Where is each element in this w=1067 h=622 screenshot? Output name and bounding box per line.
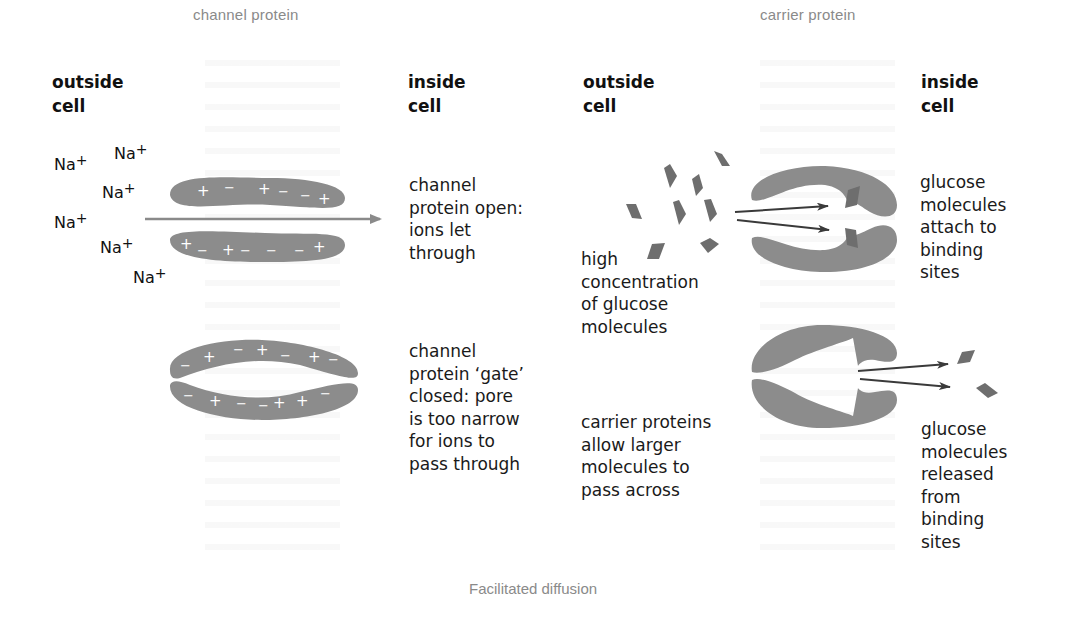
diagram-graphics: + − + − − + + − + − − − + − + − + − + − … [0, 0, 1067, 622]
release-top-subunit [752, 325, 897, 373]
glucose-molecules-outside [626, 151, 730, 259]
glucose-release-description: glucose molecules released from binding … [921, 418, 1007, 553]
sodium-ion: Na+ [54, 152, 88, 174]
svg-text:−: − [197, 243, 208, 258]
carrier-outside-cell-label: outside cell [583, 70, 655, 118]
svg-text:−: − [294, 243, 305, 258]
glucose-entry-arrow-2 [737, 220, 829, 230]
svg-text:−: − [266, 243, 277, 258]
svg-text:−: − [258, 398, 269, 413]
svg-text:−: − [300, 188, 311, 203]
svg-text:+: + [197, 182, 210, 200]
svg-text:−: − [328, 352, 339, 367]
svg-text:−: − [183, 388, 194, 403]
svg-text:+: + [203, 348, 216, 366]
svg-text:+: + [318, 190, 331, 208]
svg-text:+: + [258, 180, 271, 198]
released-glucose-2 [976, 383, 998, 398]
release-bottom-subunit [752, 379, 897, 428]
sodium-ion: Na+ [100, 235, 134, 257]
svg-text:−: − [224, 180, 235, 195]
svg-text:−: − [236, 396, 247, 411]
sodium-ion: Na+ [133, 265, 167, 287]
svg-text:+: + [273, 394, 286, 412]
glucose-release-arrow-1 [858, 364, 948, 371]
channel-open-description: channel protein open: ions let through [409, 174, 523, 264]
carrier-protein-release [752, 325, 998, 428]
svg-text:+: + [180, 235, 193, 253]
sodium-ion: Na+ [54, 210, 88, 232]
channel-protein-title: channel protein [193, 6, 299, 23]
svg-text:−: − [278, 184, 289, 199]
channel-closed-description: channel protein ‘gate’ closed: pore is t… [409, 340, 524, 475]
svg-text:+: + [313, 238, 326, 256]
svg-text:+: + [222, 241, 235, 259]
glucose-attach-description: glucose molecules attach to binding site… [920, 171, 1006, 284]
glucose-entry-arrow-1 [735, 206, 828, 212]
svg-text:+: + [209, 392, 222, 410]
svg-text:+: + [308, 348, 321, 366]
svg-text:−: − [233, 342, 244, 357]
carrier-bottom-subunit [752, 225, 897, 272]
glucose-release-arrow-2 [860, 379, 950, 387]
released-glucose-1 [957, 350, 975, 364]
sodium-ion: Na+ [102, 180, 136, 202]
high-concentration-label: high concentration of glucose molecules [581, 248, 699, 338]
svg-text:+: + [296, 392, 309, 410]
channel-protein-closed: − + − + − + − − + − − + + − [170, 340, 358, 420]
svg-text:+: + [256, 341, 269, 359]
channel-protein-open: + − + − − + + − + − − − + [145, 177, 380, 262]
sodium-ion: Na+ [114, 141, 148, 163]
svg-text:−: − [180, 358, 191, 373]
channel-outside-cell-label: outside cell [52, 70, 124, 118]
svg-text:−: − [320, 386, 331, 401]
carrier-summary-text: carrier proteins allow larger molecules … [581, 411, 711, 501]
figure-caption: Facilitated diffusion [469, 580, 597, 597]
svg-text:−: − [280, 348, 291, 363]
carrier-protein-title: carrier protein [760, 6, 856, 23]
channel-inside-cell-label: inside cell [408, 70, 466, 118]
carrier-inside-cell-label: inside cell [921, 70, 979, 118]
carrier-protein-attach [735, 166, 897, 272]
svg-text:−: − [240, 243, 251, 258]
